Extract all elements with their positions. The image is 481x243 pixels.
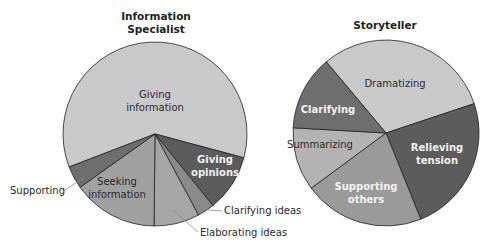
- label-giving-information-1: Giving: [139, 89, 171, 100]
- label-clarifying: Clarifying: [301, 104, 355, 115]
- label-clarifying-ideas: Clarifying ideas: [224, 205, 301, 216]
- label-seeking-information-2: information: [88, 189, 146, 200]
- label-supporting-others-2: others: [348, 194, 384, 205]
- label-dramatizing: Dramatizing: [364, 78, 425, 89]
- chart-title-left-line1: Information: [121, 10, 191, 22]
- label-giving-opinions-1: Giving: [197, 154, 233, 165]
- label-supporting: Supporting: [10, 185, 65, 196]
- chart-title-left-line2: Specialist: [127, 23, 185, 35]
- label-summarizing: Summarizing: [287, 139, 353, 150]
- label-relieving-tension-2: tension: [416, 155, 458, 166]
- label-supporting-others-1: Supporting: [335, 181, 398, 192]
- pie-storyteller: [293, 40, 479, 226]
- pie-charts: Information Specialist Giving informatio…: [0, 0, 481, 243]
- label-giving-opinions-2: opinions: [191, 167, 239, 178]
- label-elaborating-ideas: Elaborating ideas: [200, 227, 287, 238]
- chart-title-right: Storyteller: [353, 19, 417, 31]
- label-seeking-information-1: Seeking: [97, 176, 137, 187]
- label-giving-information-2: information: [126, 102, 184, 113]
- label-relieving-tension-1: Relieving: [411, 142, 463, 153]
